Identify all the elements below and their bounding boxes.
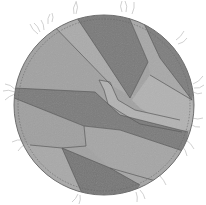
quilt-patches	[0, 0, 206, 205]
patchwork-circle-graphic	[0, 0, 206, 205]
patchwork-coaster-image: Circular patchwork quilted coaster with …	[0, 0, 206, 205]
